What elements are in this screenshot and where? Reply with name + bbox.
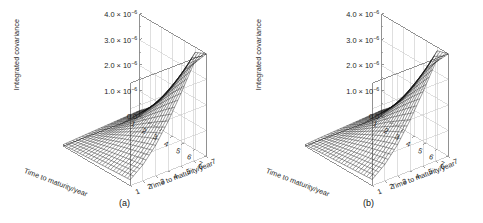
- y-axis-tick: [381, 13, 384, 14]
- y-axis-tick-label: 3.0 × 10−6: [323, 35, 379, 45]
- x-axis-right-tick: [410, 171, 412, 173]
- x-axis-left-tick: [181, 143, 184, 144]
- surface-plot-panel-b: Integrated covariance (b) 0.01.0 × 10−62…: [242, 0, 483, 223]
- x-axis-right-tick: [398, 176, 400, 178]
- y-axis-tick: [381, 64, 384, 65]
- y-axis-tick-label: 2.0 × 10−6: [323, 60, 379, 70]
- y-axis-label: Integrated covariance: [12, 0, 21, 115]
- x-axis-left-tick: [435, 150, 438, 151]
- y-axis-tick-exponent: −6: [131, 35, 137, 41]
- y-axis-tick: [139, 90, 142, 91]
- y-axis-tick: [381, 90, 384, 91]
- x-axis-right-tick: [372, 186, 374, 188]
- x-axis-left-tick: [423, 143, 426, 144]
- x-axis-left-tick: [193, 150, 196, 151]
- x-axis-right-tick: [423, 166, 425, 168]
- y-axis-tick-label: 2.0 × 10−6: [81, 60, 137, 70]
- y-axis-tick-exponent: −6: [373, 86, 379, 92]
- figure-two-surface-plots: Integrated covariance (a) 0.01.0 × 10−62…: [0, 0, 483, 223]
- y-axis-tick: [139, 13, 142, 14]
- mesh-line-v: [76, 139, 143, 165]
- y-axis-tick-exponent: −6: [373, 35, 379, 41]
- y-axis-tick-label: 1.0 × 10−6: [323, 86, 379, 96]
- y-axis-tick-label: 4.0 × 10−6: [81, 9, 137, 19]
- y-axis-tick: [139, 39, 142, 40]
- y-axis-tick-label: 3.0 × 10−6: [81, 35, 137, 45]
- y-axis-tick-exponent: −6: [373, 9, 379, 15]
- panel-tag-b: (b): [363, 198, 374, 208]
- x-axis-right-tick: [156, 176, 158, 178]
- y-axis-tick-label: 0.0: [323, 112, 379, 121]
- x-axis-right-tick: [436, 161, 438, 163]
- mesh-line-v: [378, 56, 445, 112]
- x-axis-left-tick: [170, 136, 173, 137]
- x-axis-left-tick: [412, 136, 415, 137]
- x-axis-right-tick: [168, 171, 170, 173]
- y-axis-tick-exponent: −6: [131, 9, 137, 15]
- y-axis-tick-label: 1.0 × 10−6: [81, 86, 137, 96]
- y-axis-tick-exponent: −6: [131, 86, 137, 92]
- y-axis-tick-exponent: −6: [131, 60, 137, 66]
- y-axis-tick: [139, 64, 142, 65]
- mesh-line-v: [327, 135, 394, 150]
- x-axis-right-tick: [206, 156, 208, 158]
- axis-floor-right: [305, 146, 372, 186]
- y-axis-tick-exponent: −6: [373, 60, 379, 66]
- x-axis-right-tick: [194, 161, 196, 163]
- surface-plot-panel-a: Integrated covariance (a) 0.01.0 × 10−62…: [0, 0, 241, 223]
- y-axis-tick-label: 4.0 × 10−6: [323, 9, 379, 19]
- x-axis-right-tick: [385, 181, 387, 183]
- panel-tag-a: (a): [119, 198, 130, 208]
- mesh-line-v: [318, 139, 385, 165]
- y-axis-tick-label: 0.0: [81, 112, 137, 121]
- x-axis-left-tick: [446, 156, 449, 157]
- x-axis-right-tick: [448, 156, 450, 158]
- x-axis-right-tick: [181, 166, 183, 168]
- x-axis-right-tick: [143, 181, 145, 183]
- y-axis-label: Integrated covariance: [254, 0, 263, 115]
- x-axis-left-tick: [204, 156, 207, 157]
- x-axis-right-tick: [130, 186, 132, 188]
- y-axis-tick: [381, 39, 384, 40]
